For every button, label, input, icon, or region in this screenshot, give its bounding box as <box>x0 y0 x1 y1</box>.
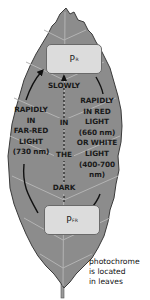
state-box-pr: PR <box>46 44 102 74</box>
label-slowly: SLOWLY <box>44 81 84 92</box>
state-pfr-sub: FR <box>72 218 78 223</box>
label-in: IN <box>56 118 72 129</box>
state-pr-sub: R <box>75 57 78 62</box>
state-pr-main: P <box>69 54 74 64</box>
label-red-light: RAPIDLY IN RED LIGHT (660 nm) OR WHITE L… <box>76 96 118 181</box>
caption: photochrome is located in leaves <box>89 257 140 287</box>
state-pfr-main: P <box>66 215 71 225</box>
state-box-pfr: PFR <box>44 205 100 235</box>
label-far-red: RAPIDLY IN FAR-RED LIGHT (730 nm) <box>10 105 52 158</box>
label-dark: DARK <box>52 183 76 194</box>
label-the: THE <box>54 150 74 161</box>
